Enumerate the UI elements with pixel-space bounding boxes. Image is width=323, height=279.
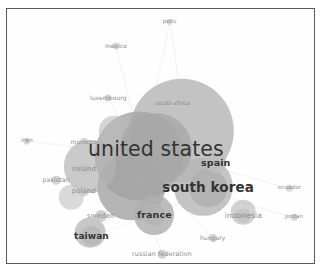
node-label-sweden[interactable]: sweden [87, 213, 114, 220]
node-label-iran[interactable]: iran [21, 138, 33, 144]
node-label-southafrica[interactable]: southafrica [155, 100, 190, 106]
node-label-pakistan[interactable]: pakistan [43, 177, 70, 183]
node-label-spain[interactable]: spain [201, 158, 230, 168]
node-label-hungary[interactable]: hungary [200, 235, 226, 241]
node-label-poland[interactable]: poland [72, 187, 96, 194]
node-label-ecuador[interactable]: ecuador [278, 185, 301, 191]
node-label-indonesia[interactable]: indonesia [225, 212, 262, 220]
node-label-south-korea[interactable]: south korea [162, 181, 254, 195]
node-label-morocco[interactable]: morocco [71, 139, 98, 145]
node-label-jordan[interactable]: jordan [285, 214, 303, 220]
node-label-russian-federation[interactable]: russian federation [132, 251, 192, 257]
node-label-france[interactable]: france [137, 210, 172, 220]
node-label-ireland[interactable]: ireland [72, 166, 96, 173]
figure-container: united statessouth koreaspainfrancetaiwa… [0, 0, 323, 279]
network-map-frame[interactable]: united statessouth koreaspainfrancetaiwa… [6, 8, 315, 264]
node-label-united-states[interactable]: united states [88, 138, 224, 159]
network-labels-layer: united statessouth koreaspainfrancetaiwa… [7, 9, 314, 263]
node-label-luxembourg[interactable]: luxembourg [90, 95, 127, 101]
node-label-mexico[interactable]: mexico [105, 43, 127, 49]
node-label-taiwan[interactable]: taiwan [74, 232, 109, 241]
node-label-peru[interactable]: peru [163, 19, 177, 25]
